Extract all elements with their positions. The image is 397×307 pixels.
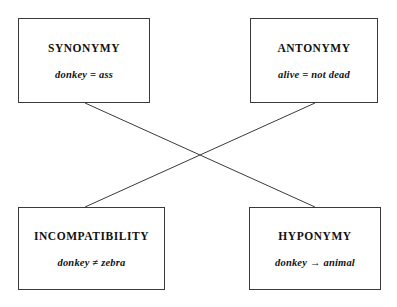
box-antonymy: ANTONYMY alive = not dead [250, 18, 378, 103]
sense-relations-diagram: SYNONYMY donkey = ass ANTONYMY alive = n… [0, 0, 397, 307]
box-synonymy: SYNONYMY donkey = ass [18, 18, 150, 103]
box-antonymy-formula: alive = not dead [278, 69, 350, 80]
box-incompatibility-title: INCOMPATIBILITY [34, 230, 149, 242]
box-antonymy-title: ANTONYMY [277, 42, 350, 54]
box-synonymy-formula: donkey = ass [55, 69, 113, 80]
box-hyponymy-title: HYPONYMY [278, 230, 351, 242]
box-incompatibility: INCOMPATIBILITY donkey ≠ zebra [18, 207, 165, 290]
connector-synonymy-to-hyponymy [85, 103, 315, 207]
box-hyponymy-formula: donkey → animal [275, 257, 355, 268]
connector-antonymy-to-incompatibility [85, 103, 315, 207]
box-synonymy-title: SYNONYMY [48, 42, 120, 54]
box-incompatibility-formula: donkey ≠ zebra [57, 257, 125, 268]
box-hyponymy: HYPONYMY donkey → animal [249, 207, 381, 290]
